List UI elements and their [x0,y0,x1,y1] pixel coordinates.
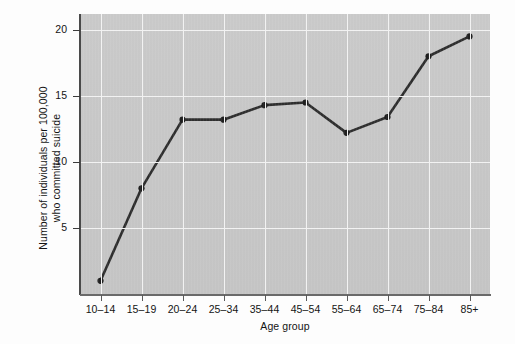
y-tick-label: 5 [43,221,67,233]
x-gridline [388,14,389,294]
x-gridline [101,14,102,294]
x-gridline [265,14,266,294]
x-tick-mark [429,295,430,301]
x-tick-mark [142,295,143,301]
y-tick-mark [73,162,80,163]
series-line [101,36,470,280]
y-tick-label: 15 [43,89,67,101]
y-axis-title: Number of individuals per 100,000 who co… [37,33,63,303]
x-tick-mark [265,295,266,301]
x-gridline [470,14,471,294]
chart-figure: Number of individuals per 100,000 who co… [0,0,515,344]
y-tick-mark [73,30,80,31]
x-gridline [224,14,225,294]
x-tick-label: 85+ [440,303,500,315]
y-tick-label: 20 [43,23,67,35]
x-tick-mark [101,295,102,301]
x-gridline [429,14,430,294]
x-tick-mark [470,295,471,301]
y-tick-label: 10 [43,155,67,167]
y-tick-mark [73,96,80,97]
x-gridline [306,14,307,294]
x-gridline [142,14,143,294]
x-gridline [183,14,184,294]
x-tick-mark [183,295,184,301]
x-axis-title: Age group [80,320,490,332]
plot-area [80,14,490,294]
y-axis-spine [79,14,81,295]
x-gridline [347,14,348,294]
x-tick-mark [224,295,225,301]
x-tick-mark [347,295,348,301]
x-tick-mark [306,295,307,301]
y-tick-mark [73,228,80,229]
x-tick-mark [388,295,389,301]
